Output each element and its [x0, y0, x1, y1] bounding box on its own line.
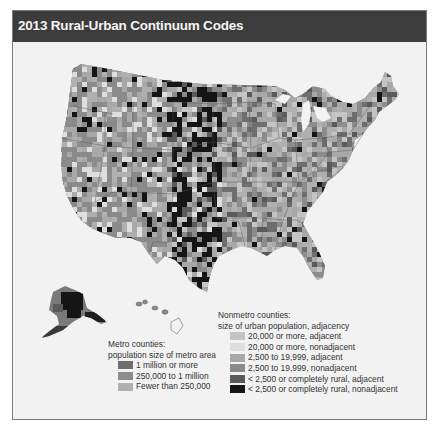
- legend-item: 20,000 or more, adjacent: [218, 331, 398, 342]
- legend-label: < 2,500 or completely rural, nonadjacent: [248, 384, 398, 395]
- legend-nonmetro-heading-2: size of urban population, adjacency: [218, 321, 398, 332]
- legend-item: 2,500 to 19,999, adjacent: [218, 352, 398, 363]
- legend-swatch: [230, 375, 245, 383]
- alaska: [41, 286, 107, 338]
- legend-swatch: [230, 343, 245, 351]
- legend-swatch: [118, 372, 133, 380]
- title-bar: 2013 Rural-Urban Continuum Codes: [13, 11, 426, 42]
- legend-swatch: [230, 385, 245, 393]
- legend-label: Fewer than 250,000: [136, 381, 211, 392]
- legend-item: Fewer than 250,000: [108, 381, 216, 392]
- legend-label: 1 million or more: [136, 360, 198, 371]
- contiguous-us: [57, 62, 407, 302]
- legend-item: 1 million or more: [108, 360, 216, 371]
- legend-item: < 2,500 or completely rural, adjacent: [218, 374, 398, 385]
- us-county-map: [13, 42, 426, 342]
- legend-swatch: [118, 383, 133, 391]
- legend-label: 2,500 to 19,999, nonadjacent: [248, 363, 357, 374]
- map-title: 2013 Rural-Urban Continuum Codes: [18, 18, 243, 33]
- legend-label: 20,000 or more, adjacent: [248, 331, 341, 342]
- legend-swatch: [230, 332, 245, 340]
- legend-label: < 2,500 or completely rural, adjacent: [248, 374, 384, 385]
- legend-label: 20,000 or more, nonadjacent: [248, 342, 355, 353]
- legend-item: 250,000 to 1 million: [108, 371, 216, 382]
- legend-label: 250,000 to 1 million: [136, 371, 209, 382]
- legend-item: < 2,500 or completely rural, nonadjacent: [218, 384, 398, 395]
- legend-metro: Metro counties: population size of metro…: [108, 339, 216, 392]
- legend-nonmetro: Nonmetro counties: size of urban populat…: [218, 310, 398, 395]
- hawaii: [136, 300, 183, 334]
- legend-metro-heading-1: Metro counties:: [108, 339, 216, 350]
- legend-item: 2,500 to 19,999, nonadjacent: [218, 363, 398, 374]
- legend-swatch: [230, 354, 245, 362]
- map-figure: 2013 Rural-Urban Continuum Codes: [12, 10, 427, 420]
- legend-swatch: [230, 364, 245, 372]
- legend-metro-heading-2: population size of metro area: [108, 350, 216, 361]
- legend-item: 20,000 or more, nonadjacent: [218, 342, 398, 353]
- legend-nonmetro-heading-1: Nonmetro counties:: [218, 310, 398, 321]
- legend-label: 2,500 to 19,999, adjacent: [248, 352, 343, 363]
- legend-swatch: [118, 361, 133, 369]
